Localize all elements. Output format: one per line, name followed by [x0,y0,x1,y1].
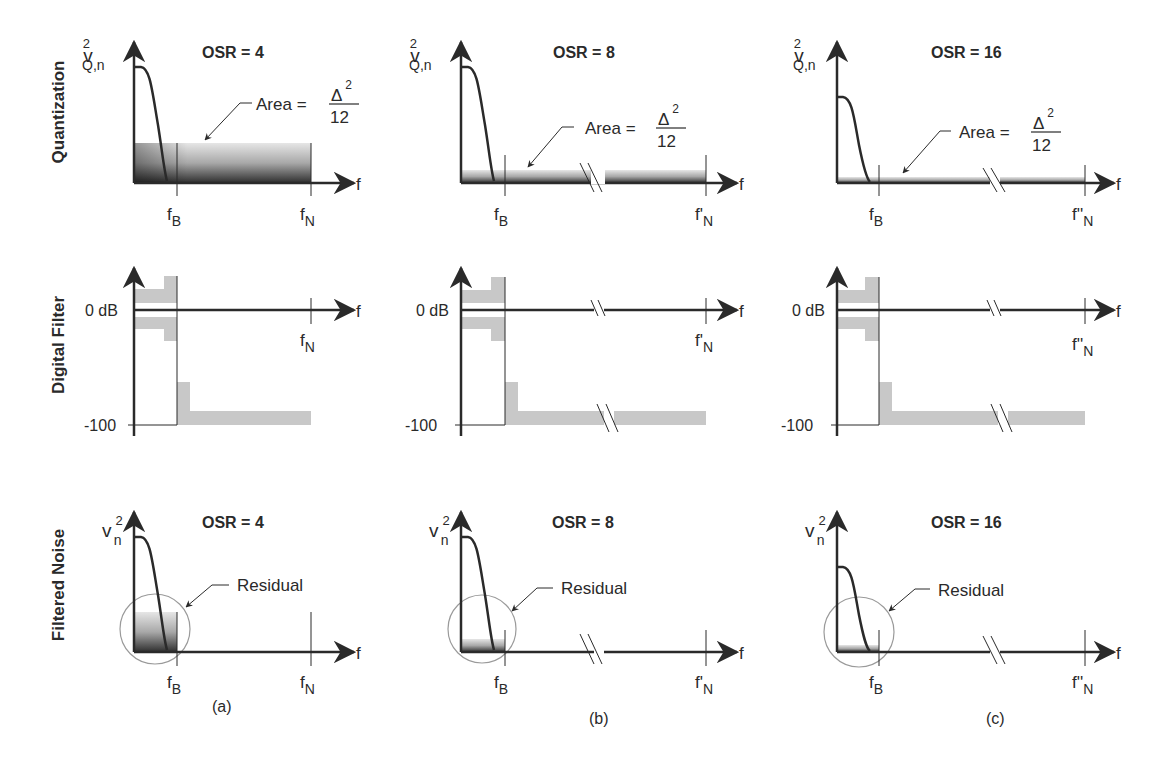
filtered-noise-plot-c: v2n OSR = 16 Residual f fB f''N (c) [805,512,1121,727]
caption-c: (c) [986,710,1005,727]
svg-text:12: 12 [1032,136,1051,155]
digital-filter-plot-c: 0 dB -100 f f''N [781,268,1121,436]
area-denominator: 12 [330,108,349,127]
osr-label: OSR = 4 [202,44,264,61]
y-axis-label: v2n [102,513,123,548]
svg-text:f''N: f''N [1072,673,1093,697]
svg-text:Δ2: Δ2 [658,102,679,129]
fn-label: fN [300,205,315,229]
svg-text:Δ2: Δ2 [1033,106,1054,133]
svg-text:fB: fB [494,673,508,697]
residual-pointer-arrow [186,585,229,607]
osr-label: OSR = 8 [553,44,615,61]
svg-text:OSR = 16: OSR = 16 [931,514,1002,531]
x-axis-label: f [356,644,361,663]
quantization-plot-a: v2Q,n OSR = 4 Area = Δ2 12 f fB fN [82,36,361,229]
svg-text:fB: fB [869,673,883,697]
column-b: v2Q,n OSR = 8 Area = Δ2 12 f fB f'N [405,36,744,727]
quantization-plot-b: v2Q,n OSR = 8 Area = Δ2 12 f fB f'N [409,36,744,229]
svg-text:f'N: f'N [695,205,713,229]
svg-text:f: f [1116,302,1121,321]
x-axis-label: f [356,175,361,194]
digital-filter-plot-b: 0 dB -100 f f'N [405,268,744,436]
svg-text:f: f [739,175,744,194]
quantization-plot-c: v2Q,n OSR = 16 Area = Δ2 12 f fB f''N [793,36,1121,229]
column-c: v2Q,n OSR = 16 Area = Δ2 12 f fB f''N [781,36,1121,727]
axis-break [591,300,605,316]
svg-text:f'N: f'N [695,331,713,355]
osr-label: OSR = 4 [202,514,264,531]
svg-text:v2n: v2n [429,513,450,548]
area-pointer-arrow [205,103,252,140]
minus-100-tick: -100 [84,417,116,434]
fn-label: fN [300,331,315,355]
filtered-noise-plot-b: v2n OSR = 8 Residual f fB f'N (b) [429,512,744,727]
caption-a: (a) [212,698,232,715]
svg-text:OSR = 8: OSR = 8 [552,514,614,531]
oversampling-diagram: Quantization Digital Filter Filtered Noi… [0,0,1169,773]
svg-text:Residual: Residual [561,579,627,598]
svg-text:-100: -100 [781,417,813,434]
zero-db-tick: 0 dB [85,302,118,319]
filtered-noise-plot-a: v2n OSR = 4 Residual f fB fN (a) [102,512,361,715]
svg-text:Area =: Area = [959,123,1010,142]
svg-text:v2Q,n: v2Q,n [409,36,432,73]
svg-text:f: f [1116,644,1121,663]
axis-break [580,634,604,664]
svg-text:0 dB: 0 dB [416,302,449,319]
x-axis-label: f [356,302,361,321]
svg-text:fB: fB [869,205,883,229]
svg-text:0 dB: 0 dB [792,302,825,319]
caption-b: (b) [589,710,609,727]
svg-text:f: f [1116,175,1121,194]
svg-text:12: 12 [657,132,676,151]
svg-text:f: f [739,302,744,321]
area-numerator: Δ2 [331,78,352,105]
fn-label: fN [300,673,315,697]
row-label-filtered-noise: Filtered Noise [49,529,68,641]
svg-text:OSR = 16: OSR = 16 [931,44,1002,61]
row-label-quantization: Quantization [49,61,68,164]
fb-label: fB [167,673,181,697]
svg-text:Residual: Residual [938,581,1004,600]
svg-text:f'N: f'N [695,673,713,697]
svg-text:-100: -100 [405,417,437,434]
axis-break [983,636,1005,664]
fb-label: fB [167,205,181,229]
row-label-digital-filter: Digital Filter [49,296,68,395]
svg-text:Area =: Area = [585,119,636,138]
axis-break [987,300,1001,316]
y-axis-label: v2Q,n [82,36,105,73]
svg-text:v2Q,n: v2Q,n [793,36,816,73]
area-label: Area = [256,95,307,114]
svg-text:fB: fB [494,205,508,229]
residual-label: Residual [237,576,303,595]
svg-text:v2n: v2n [805,513,826,548]
digital-filter-plot-a: 0 dB -100 f fN [84,268,361,436]
svg-text:f''N: f''N [1072,205,1093,229]
svg-text:f: f [739,644,744,663]
column-a: v2Q,n OSR = 4 Area = Δ2 12 f fB fN 0 dB [82,36,361,715]
svg-text:f''N: f''N [1072,335,1093,359]
